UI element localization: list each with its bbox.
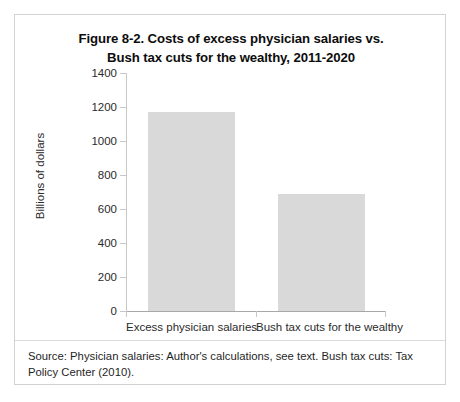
x-axis-start-tick bbox=[126, 311, 127, 317]
source-note: Source: Physician salaries: Author's cal… bbox=[28, 348, 428, 380]
figure-container: Figure 8-2. Costs of excess physician sa… bbox=[14, 14, 446, 385]
y-tick-label: 1000 bbox=[91, 135, 117, 147]
y-tick-mark bbox=[120, 141, 126, 142]
x-axis-mid-tick bbox=[256, 311, 257, 317]
y-tick-mark bbox=[120, 175, 126, 176]
x-category-label-1: Bush tax cuts for the wealthy bbox=[256, 321, 386, 333]
y-axis-label: Billions of dollars bbox=[34, 106, 46, 246]
y-tick-label: 600 bbox=[98, 203, 117, 215]
y-tick-mark bbox=[120, 243, 126, 244]
y-tick-mark bbox=[120, 209, 126, 210]
y-tick-mark bbox=[120, 107, 126, 108]
plot-area: 1400 1200 1000 800 600 400 bbox=[126, 73, 386, 311]
y-tick-label: 1400 bbox=[91, 67, 117, 79]
x-category-label-0: Excess physician salaries bbox=[126, 321, 256, 333]
y-axis-line bbox=[126, 73, 127, 311]
y-tick-label: 400 bbox=[98, 237, 117, 249]
y-tick-label: 1200 bbox=[91, 101, 117, 113]
y-tick-mark bbox=[120, 277, 126, 278]
y-tick-label: 0 bbox=[111, 305, 117, 317]
y-tick-label: 200 bbox=[98, 271, 117, 283]
source-divider bbox=[15, 340, 445, 341]
y-tick-label: 800 bbox=[98, 169, 117, 181]
bar-bush-tax-cuts bbox=[278, 194, 365, 311]
y-tick-mark bbox=[120, 73, 126, 74]
bar-excess-physician-salaries bbox=[148, 112, 235, 311]
x-axis-end-tick bbox=[385, 311, 386, 317]
plot-wrapper: Billions of dollars 1400 1200 1000 800 bbox=[15, 15, 447, 341]
